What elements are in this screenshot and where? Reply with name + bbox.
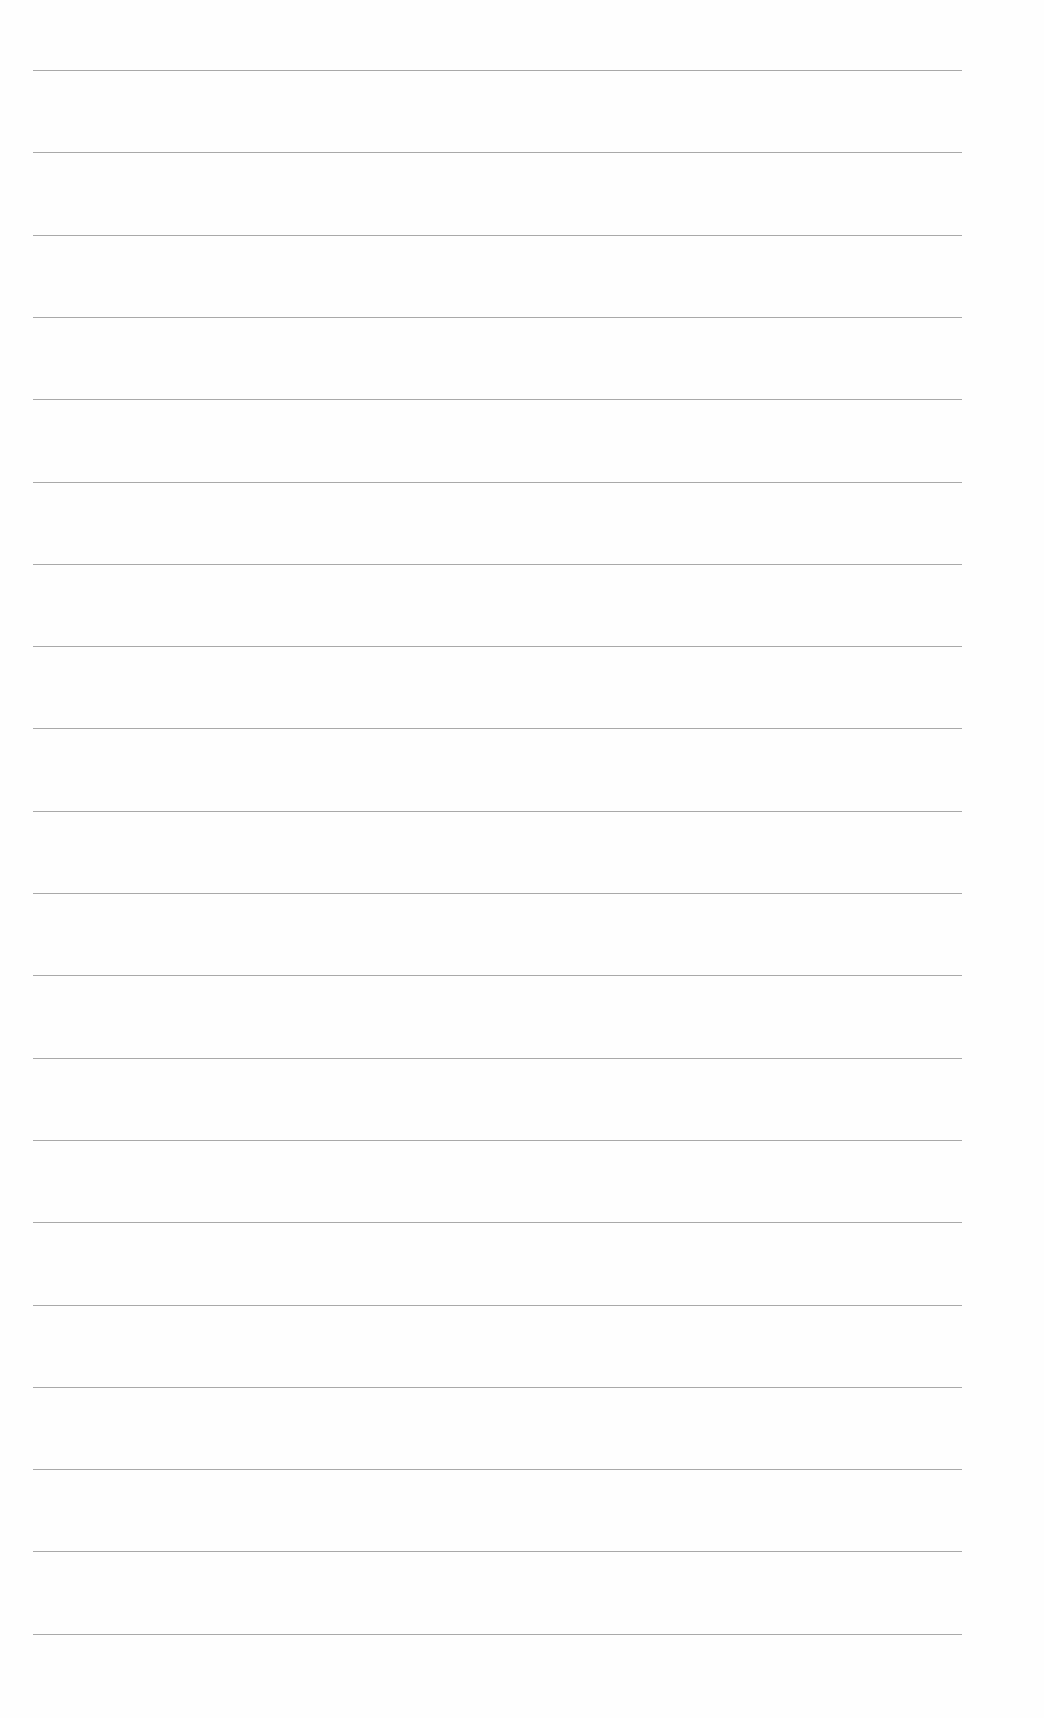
ruled-line bbox=[33, 482, 962, 483]
lined-paper-page bbox=[0, 0, 1044, 1718]
ruled-line bbox=[33, 152, 962, 153]
ruled-line bbox=[33, 811, 962, 812]
ruled-line bbox=[33, 70, 962, 71]
ruled-line bbox=[33, 235, 962, 236]
ruled-line bbox=[33, 1140, 962, 1141]
ruled-line bbox=[33, 399, 962, 400]
ruled-line bbox=[33, 646, 962, 647]
ruled-line bbox=[33, 1387, 962, 1388]
ruled-line bbox=[33, 1222, 962, 1223]
ruled-line bbox=[33, 564, 962, 565]
ruled-line bbox=[33, 893, 962, 894]
ruled-line bbox=[33, 1634, 962, 1635]
ruled-line bbox=[33, 317, 962, 318]
ruled-line bbox=[33, 1305, 962, 1306]
ruled-line bbox=[33, 975, 962, 976]
ruled-line bbox=[33, 1058, 962, 1059]
ruled-line bbox=[33, 1551, 962, 1552]
ruled-line bbox=[33, 1469, 962, 1470]
ruled-line bbox=[33, 728, 962, 729]
